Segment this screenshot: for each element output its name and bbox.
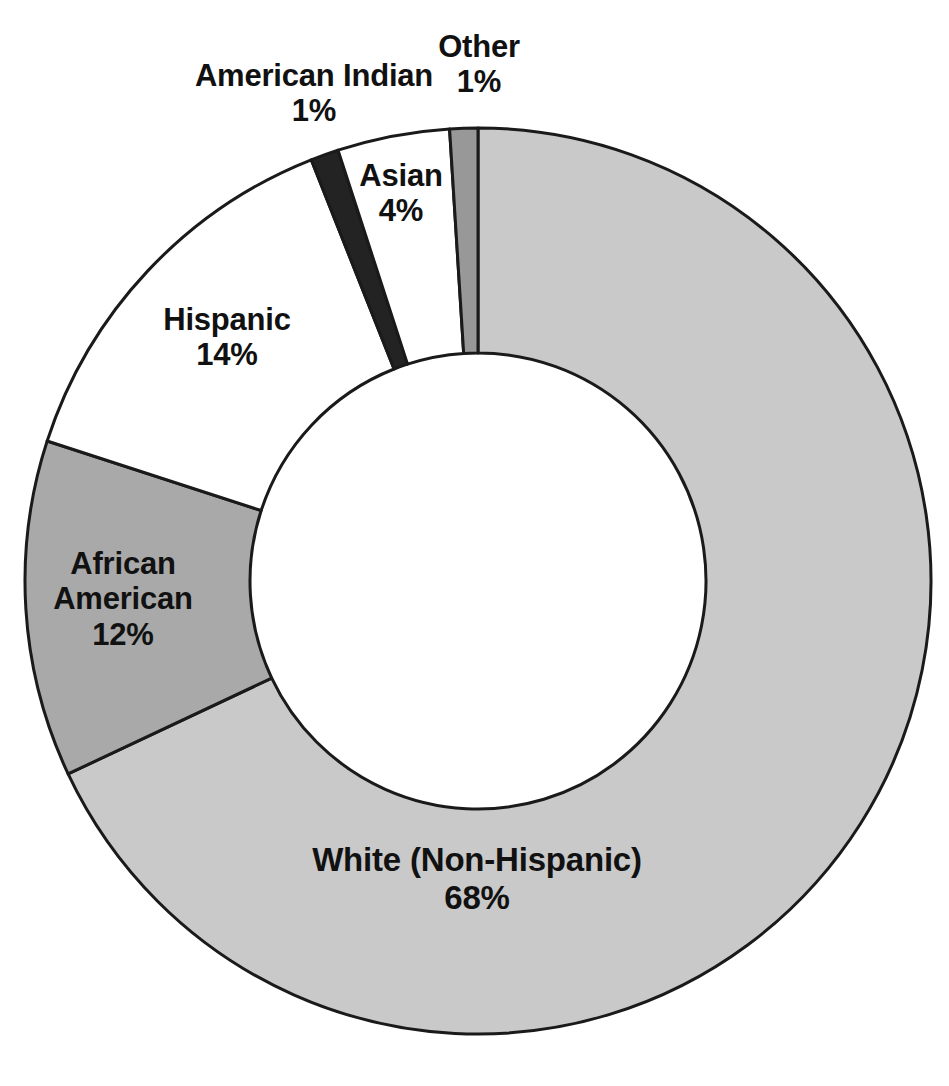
slice-label-american-indian-name: American Indian <box>195 58 433 93</box>
slice-label-other: Other 1% <box>438 29 520 100</box>
slice-label-hispanic: Hispanic 14% <box>163 302 291 373</box>
slice-label-african-american-line1: African <box>53 546 193 581</box>
donut-chart <box>0 0 949 1086</box>
slice-label-african-american: African American 12% <box>53 546 193 652</box>
slice-label-african-american-line2: American <box>53 581 193 616</box>
slice-label-white-non-hispanic: White (Non-Hispanic) 68% <box>312 841 642 916</box>
slice-label-asian: Asian 4% <box>359 158 442 229</box>
slice-label-white-non-hispanic-name: White (Non-Hispanic) <box>312 841 642 879</box>
slice-label-white-non-hispanic-value: 68% <box>312 879 642 917</box>
slice-label-other-name: Other <box>438 29 520 64</box>
slice-label-african-american-value: 12% <box>53 617 193 652</box>
slice-label-american-indian-value: 1% <box>195 93 433 128</box>
slice-label-hispanic-name: Hispanic <box>163 302 291 337</box>
slice-label-asian-value: 4% <box>359 193 442 228</box>
slice-label-asian-name: Asian <box>359 158 442 193</box>
slice-label-hispanic-value: 14% <box>163 337 291 372</box>
slice-label-american-indian: American Indian 1% <box>195 58 433 129</box>
chart-page: White (Non-Hispanic) 68% African America… <box>0 0 949 1086</box>
slice-label-other-value: 1% <box>438 64 520 99</box>
